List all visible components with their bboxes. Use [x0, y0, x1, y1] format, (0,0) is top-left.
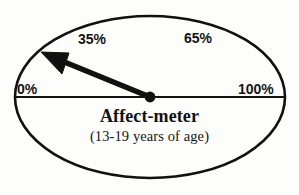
- needle-pivot-hub: [145, 92, 156, 103]
- tick-label-0-percent: 0%: [17, 82, 37, 96]
- figure-subtitle: (13-19 years of age): [0, 128, 299, 145]
- tick-label-65-percent: 65%: [184, 31, 212, 45]
- tick-label-35-percent: 35%: [78, 32, 106, 46]
- figure-title: Affect-meter: [0, 106, 299, 127]
- gauge-drawing: [0, 0, 299, 195]
- affect-meter-figure: 35% 65% 0% 100% Affect-meter (13-19 year…: [0, 0, 299, 195]
- figure-caption-block: Affect-meter (13-19 years of age): [0, 106, 299, 145]
- tick-label-100-percent: 100%: [238, 82, 274, 96]
